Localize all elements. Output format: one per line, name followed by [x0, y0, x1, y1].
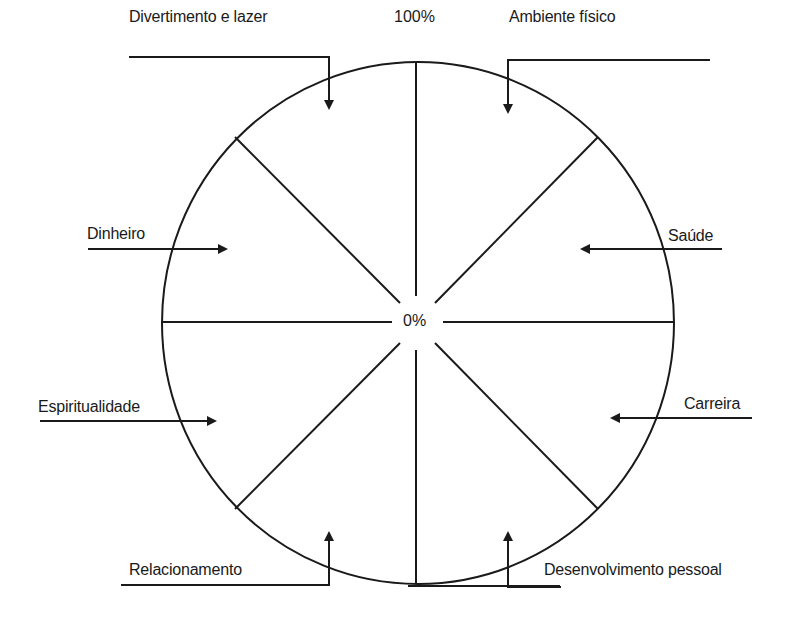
outer-percent-label: 100% [394, 8, 435, 26]
spoke-bottom-right [435, 343, 598, 509]
label-saude: Saúde [668, 227, 713, 245]
spoke-top-right [435, 137, 598, 303]
wheel-diagram [0, 0, 792, 623]
spoke-top-left [235, 137, 400, 303]
arrow-ambiente [508, 60, 710, 112]
label-dinheiro: Dinheiro [87, 225, 145, 243]
center-percent-label: 0% [403, 312, 426, 330]
label-espiritualidade: Espiritualidade [38, 398, 140, 416]
label-divertimento-e-lazer: Divertimento e lazer [129, 8, 267, 26]
spoke-bottom-left [235, 343, 400, 509]
arrow-divertimento [129, 57, 329, 108]
label-desenvolvimento-pessoal: Desenvolvimento pessoal [544, 561, 722, 579]
label-carreira: Carreira [684, 395, 740, 413]
label-ambiente-fisico: Ambiente físico [509, 8, 615, 26]
label-relacionamento: Relacionamento [129, 561, 242, 579]
